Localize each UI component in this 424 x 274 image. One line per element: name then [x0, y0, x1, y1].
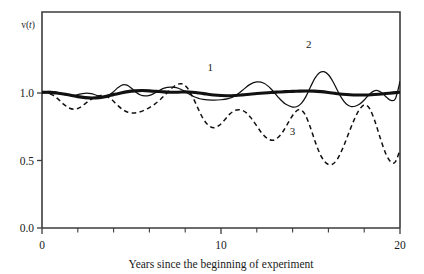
series-layer: [42, 72, 400, 165]
y-tick-label: 0.0: [20, 222, 35, 234]
curve-label-1: 1: [208, 61, 214, 73]
line-chart-canvas: 0.00.51.001020 123v(t)Years since the be…: [0, 0, 424, 274]
x-axis-title: Years since the beginning of experiment: [128, 258, 314, 271]
labels-layer: 123v(t)Years since the beginning of expe…: [21, 20, 314, 271]
x-tick-label: 0: [39, 239, 45, 251]
axes-layer: 0.00.51.001020: [20, 12, 406, 251]
curve-label-3: 3: [290, 125, 296, 137]
x-tick-label: 10: [215, 239, 227, 251]
series-curve-2: [42, 72, 400, 108]
series-curve-1: [42, 91, 400, 98]
curve-label-2: 2: [306, 38, 312, 50]
chart-figure: 0.00.51.001020 123v(t)Years since the be…: [0, 0, 424, 274]
axis-frame: [42, 12, 400, 228]
y-axis-title: v(t): [21, 20, 35, 31]
y-tick-label: 1.0: [20, 87, 35, 99]
x-tick-label: 20: [394, 239, 406, 251]
y-tick-label: 0.5: [20, 155, 35, 167]
